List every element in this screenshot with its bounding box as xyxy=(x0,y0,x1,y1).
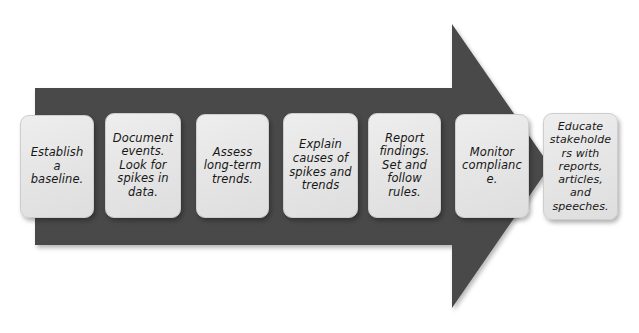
step-report-findings-label: Report findings. Set and follow rules. xyxy=(374,132,435,200)
step-establish-baseline-label: Establish a baseline. xyxy=(26,146,88,187)
step-monitor-compliance[interactable]: Monitor compliance. xyxy=(455,114,529,218)
step-establish-baseline[interactable]: Establish a baseline. xyxy=(20,115,94,218)
process-steps-list: Establish a baseline. Document events. L… xyxy=(0,0,639,333)
step-explain-causes[interactable]: Explain causes of spikes and trends xyxy=(283,113,358,218)
process-arrow-diagram: Establish a baseline. Document events. L… xyxy=(0,0,639,333)
step-document-events[interactable]: Document events. Look for spikes in data… xyxy=(105,113,181,218)
step-explain-causes-label: Explain causes of spikes and trends xyxy=(289,138,352,192)
step-document-events-label: Document events. Look for spikes in data… xyxy=(111,132,175,200)
step-educate-stakeholders-label: Educate stakeholders with reports, artic… xyxy=(549,120,612,212)
step-monitor-compliance-label: Monitor compliance. xyxy=(461,146,523,187)
step-educate-stakeholders[interactable]: Educate stakeholders with reports, artic… xyxy=(543,113,618,220)
step-assess-trends[interactable]: Assess long-term trends. xyxy=(196,114,269,218)
step-assess-trends-label: Assess long-term trends. xyxy=(202,146,263,187)
step-report-findings[interactable]: Report findings. Set and follow rules. xyxy=(368,113,441,218)
